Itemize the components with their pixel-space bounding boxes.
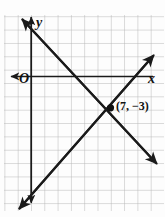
- origin-label: O: [19, 72, 29, 86]
- intersection-point-label: (7, −3): [116, 100, 149, 112]
- intersection-point-dot: [107, 104, 114, 111]
- x-axis-label: x: [148, 72, 155, 86]
- grid-lines: [4, 15, 164, 211]
- y-axis-label: y: [36, 16, 42, 30]
- coordinate-plane-figure: y x O (7, −3): [0, 0, 165, 217]
